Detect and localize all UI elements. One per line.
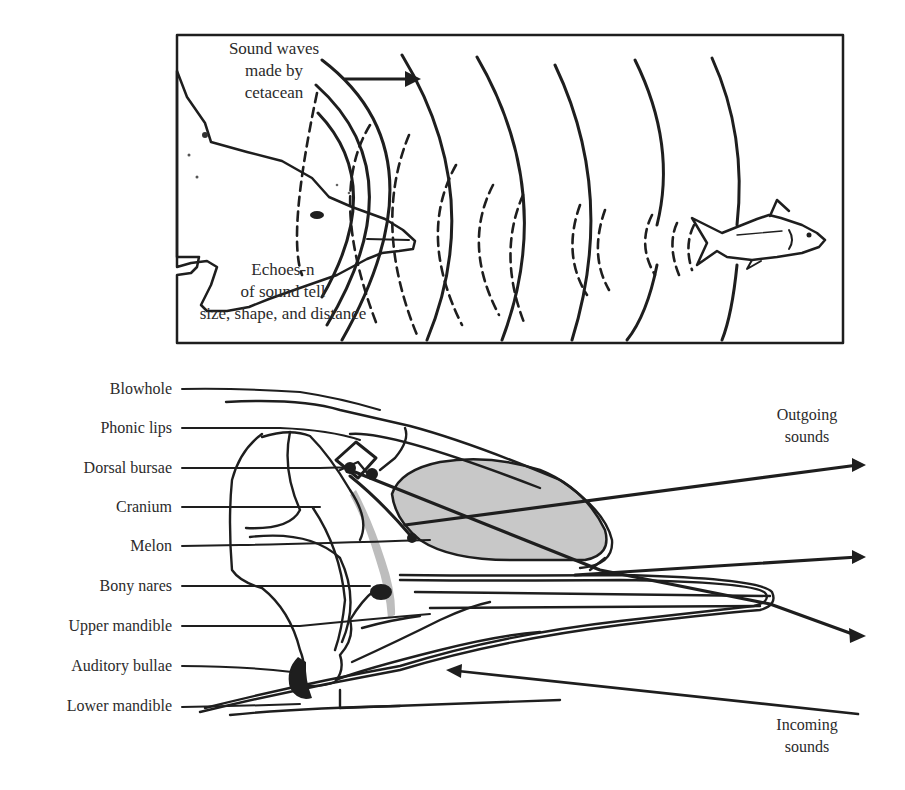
label-phonic-lips: Phonic lips (7, 419, 172, 437)
arrowhead-outgoing-2 (852, 550, 866, 564)
head-anatomy-panel: Blowhole Phonic lips Dorsal bursae Crani… (0, 370, 905, 790)
melon-shape (392, 459, 606, 560)
bony-nares-blob (370, 584, 392, 600)
label-blowhole: Blowhole (7, 380, 172, 398)
label-cranium: Cranium (7, 498, 172, 516)
label-dorsal-bursae: Dorsal bursae (7, 459, 172, 477)
label-melon: Melon (7, 537, 172, 555)
arrowhead-outgoing-3 (849, 628, 866, 643)
outgoing-sounds-label: Outgoing sounds (752, 404, 862, 448)
echo-label: Echoes-n of sound tell size, shape, and … (183, 259, 383, 325)
incoming-sounds-label: Incoming sounds (752, 714, 862, 758)
auditory-bullae-blob (289, 657, 312, 699)
label-upper-mandible: Upper mandible (7, 617, 172, 635)
label-bony-nares: Bony nares (7, 577, 172, 595)
emitted-sound-label: Sound waves made by cetacean (169, 38, 379, 104)
arrowhead-incoming (446, 664, 462, 678)
fish (692, 200, 825, 269)
leader-lines (182, 389, 430, 707)
label-lower-mandible: Lower mandible (7, 697, 172, 715)
echolocation-panel: Sound waves made by cetacean Echoes-n of… (177, 35, 845, 345)
label-auditory-bullae: Auditory bullae (7, 657, 172, 675)
incoming-sound-arrow (458, 671, 858, 714)
arrowhead-outgoing-1 (852, 458, 866, 472)
dolphin-eye (310, 211, 324, 219)
